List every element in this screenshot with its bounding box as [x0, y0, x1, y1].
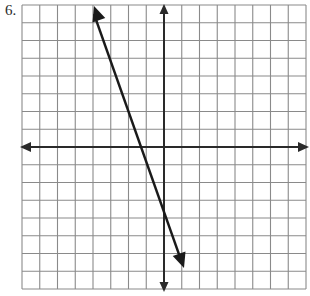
x-axis-right-arrow-icon — [298, 142, 309, 152]
y-axis-down-arrow-icon — [160, 282, 169, 292]
graph-line — [94, 14, 181, 260]
plotted-line — [92, 6, 185, 268]
line-arrow-down-icon — [173, 252, 186, 268]
coordinate-graph — [0, 0, 310, 296]
line-arrow-up-icon — [92, 6, 105, 22]
axes — [20, 4, 309, 292]
